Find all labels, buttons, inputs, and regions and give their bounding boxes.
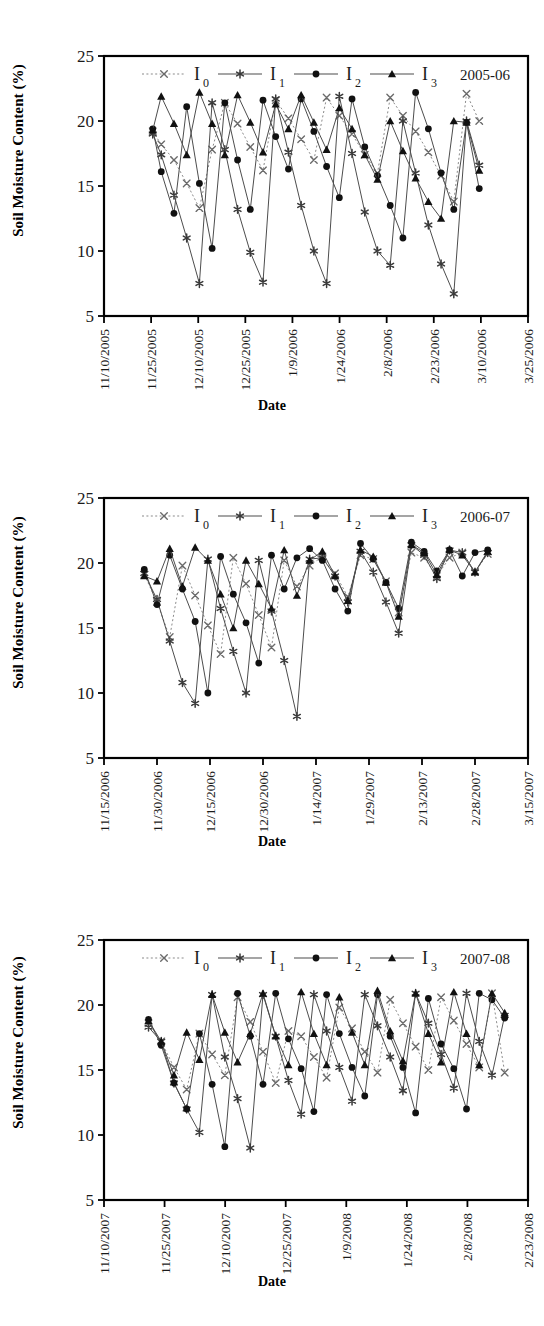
y-tick-label: 25 bbox=[77, 47, 94, 66]
legend-sub-I2: 2 bbox=[355, 960, 361, 974]
legend-label-I0: I bbox=[194, 948, 200, 968]
data-point-I2 bbox=[425, 995, 432, 1002]
marker-circle bbox=[183, 1106, 190, 1113]
data-point-I2 bbox=[323, 163, 330, 170]
data-point-I2 bbox=[217, 553, 224, 560]
marker-circle bbox=[357, 540, 364, 547]
legend-sub-I0: 0 bbox=[203, 960, 209, 974]
data-point-I2 bbox=[183, 103, 190, 110]
marker-circle bbox=[344, 608, 351, 615]
marker-circle bbox=[400, 235, 407, 242]
x-tick-label: 12/30/2006 bbox=[256, 771, 271, 833]
marker-circle bbox=[313, 71, 320, 78]
marker-circle bbox=[323, 163, 330, 170]
data-point-I2 bbox=[196, 180, 203, 187]
x-axis-title-3: Date bbox=[0, 1274, 544, 1290]
marker-circle bbox=[332, 586, 339, 593]
data-point-I2 bbox=[141, 566, 148, 573]
y-tick-label: 15 bbox=[77, 619, 94, 638]
x-tick-label: 1/29/2007 bbox=[362, 771, 377, 826]
data-point-I2 bbox=[459, 573, 466, 580]
data-point-I2 bbox=[285, 166, 292, 173]
plot-area-1: 51015202511/10/200511/25/200512/10/20051… bbox=[0, 0, 544, 442]
data-point-I2 bbox=[158, 168, 165, 175]
data-point-I2 bbox=[260, 97, 267, 104]
marker-circle bbox=[196, 1030, 203, 1037]
y-tick-label: 5 bbox=[86, 307, 95, 326]
data-point-I2 bbox=[260, 1081, 267, 1088]
marker-circle bbox=[450, 206, 457, 213]
season-label: 2005-06 bbox=[460, 67, 510, 83]
marker-circle bbox=[400, 1064, 407, 1071]
marker-circle bbox=[221, 99, 228, 106]
marker-circle bbox=[476, 185, 483, 192]
data-point-I2 bbox=[209, 245, 216, 252]
x-tick-label: 12/10/2005 bbox=[191, 329, 206, 391]
data-point-I2 bbox=[272, 990, 279, 997]
y-tick-label: 5 bbox=[86, 1191, 95, 1210]
x-tick-label: 2/23/2006 bbox=[427, 329, 442, 384]
legend-label-I1: I bbox=[270, 506, 276, 526]
marker-circle bbox=[387, 202, 394, 209]
legend-label-I3: I bbox=[422, 506, 428, 526]
legend-marker-I2 bbox=[313, 71, 320, 78]
legend-label-I2: I bbox=[346, 948, 352, 968]
data-point-I2 bbox=[310, 1108, 317, 1115]
data-point-I2 bbox=[319, 557, 326, 564]
data-point-I2 bbox=[298, 1065, 305, 1072]
data-point-I2 bbox=[425, 125, 432, 132]
legend-marker-I2 bbox=[313, 955, 320, 962]
data-point-I2 bbox=[476, 990, 483, 997]
data-point-I2 bbox=[171, 1080, 178, 1087]
legend-sub-I3: 3 bbox=[431, 76, 437, 90]
marker-circle bbox=[243, 619, 250, 626]
data-point-I2 bbox=[387, 202, 394, 209]
x-tick-label: 11/10/2007 bbox=[97, 1213, 112, 1274]
marker-circle bbox=[313, 513, 320, 520]
marker-circle bbox=[336, 194, 343, 201]
x-tick-label: 3/10/2006 bbox=[474, 329, 489, 384]
marker-circle bbox=[412, 1110, 419, 1117]
data-point-I2 bbox=[171, 210, 178, 217]
marker-circle bbox=[463, 1106, 470, 1113]
figure-soil-moisture: Soil Moisture Content (%) 51015202511/10… bbox=[0, 0, 544, 1326]
legend-sub-I3: 3 bbox=[431, 518, 437, 532]
data-point-I2 bbox=[438, 170, 445, 177]
data-point-I2 bbox=[412, 1110, 419, 1117]
x-axis-title-2: Date bbox=[0, 834, 544, 850]
plot-frame bbox=[104, 940, 528, 1200]
data-point-I2 bbox=[221, 99, 228, 106]
marker-circle bbox=[412, 89, 419, 96]
legend-sub-I1: 1 bbox=[279, 960, 285, 974]
data-point-I2 bbox=[400, 235, 407, 242]
x-tick-label: 3/25/2006 bbox=[521, 329, 536, 384]
marker-circle bbox=[234, 990, 241, 997]
marker-circle bbox=[310, 128, 317, 135]
marker-circle bbox=[323, 991, 330, 998]
marker-circle bbox=[247, 206, 254, 213]
x-tick-label: 2/8/2006 bbox=[380, 329, 395, 377]
x-tick-label: 12/15/2006 bbox=[203, 771, 218, 833]
legend-label-I3: I bbox=[422, 948, 428, 968]
legend-sub-I0: 0 bbox=[203, 76, 209, 90]
x-tick-label: 2/13/2007 bbox=[415, 771, 430, 826]
x-tick-label: 11/25/2005 bbox=[144, 329, 159, 390]
data-point-I2 bbox=[204, 690, 211, 697]
marker-circle bbox=[221, 1143, 228, 1150]
marker-circle bbox=[141, 566, 148, 573]
marker-circle bbox=[204, 690, 211, 697]
y-tick-label: 20 bbox=[77, 554, 94, 573]
data-point-I2 bbox=[357, 540, 364, 547]
y-tick-label: 25 bbox=[77, 489, 94, 508]
data-point-I2 bbox=[268, 552, 275, 559]
x-tick-label: 3/15/2007 bbox=[521, 771, 536, 826]
legend-label-I2: I bbox=[346, 64, 352, 84]
plot-frame bbox=[104, 498, 528, 758]
chart-svg-2007-08: 51015202511/10/200711/25/200712/10/20071… bbox=[0, 884, 544, 1284]
x-tick-label: 1/24/2008 bbox=[400, 1213, 415, 1268]
x-tick-label: 2/8/2008 bbox=[460, 1213, 475, 1261]
marker-circle bbox=[171, 210, 178, 217]
data-point-I2 bbox=[209, 1081, 216, 1088]
legend-label-I1: I bbox=[270, 64, 276, 84]
chart-panel-2005-06: Soil Moisture Content (%) 51015202511/10… bbox=[0, 0, 544, 442]
